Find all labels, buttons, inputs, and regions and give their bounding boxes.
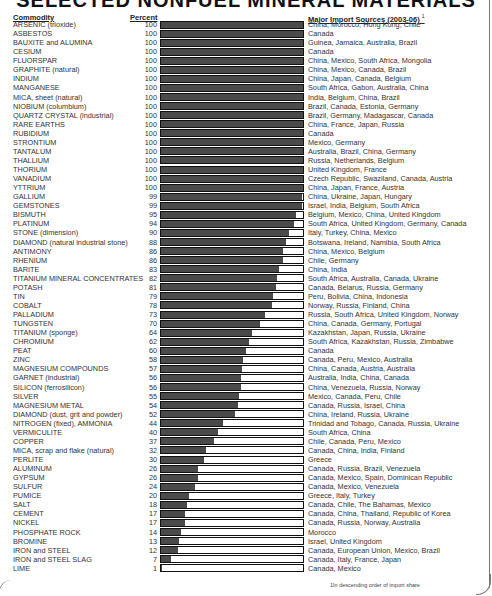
table-row: COPPER37Chile, Canada, Peru, Mexico bbox=[0, 437, 492, 446]
commodity-name: ASBESTOS bbox=[13, 29, 52, 38]
percent-value: 100 bbox=[128, 111, 157, 120]
percent-value: 99 bbox=[128, 192, 157, 201]
percent-value: 60 bbox=[128, 346, 157, 355]
percent-value: 56 bbox=[128, 383, 157, 392]
percent-bar bbox=[160, 392, 304, 400]
percent-bar bbox=[160, 537, 304, 545]
import-sources: Canada, Russia, Israel, China bbox=[308, 401, 405, 410]
percent-bar-fill bbox=[161, 538, 179, 544]
percent-value: 100 bbox=[128, 129, 157, 138]
percent-value: 100 bbox=[128, 74, 157, 83]
import-sources: Canada bbox=[308, 29, 334, 38]
import-sources: Canada, European Union, Mexico, Brazil bbox=[308, 546, 440, 555]
import-sources: Canada, Mexico bbox=[308, 564, 361, 573]
commodity-name: ARSENIC (trioxide) bbox=[13, 20, 76, 29]
table-row: SALT18Canada, Chile, The Bahamas, Mexico bbox=[0, 500, 492, 509]
table-row: SILICON (ferrosilicon)56China, Venezuela… bbox=[0, 383, 492, 392]
percent-bar bbox=[160, 510, 304, 518]
percent-bar-fill bbox=[161, 493, 189, 499]
percent-value: 100 bbox=[128, 102, 157, 111]
percent-value: 99 bbox=[128, 201, 157, 210]
percent-bar-fill bbox=[161, 221, 294, 227]
percent-bar-fill bbox=[161, 366, 242, 372]
table-row: PHOSPHATE ROCK14Morocco bbox=[0, 528, 492, 537]
percent-bar-fill bbox=[161, 67, 303, 73]
import-sources: Canada, China, Thailand, Republic of Kor… bbox=[308, 509, 451, 518]
percent-value: 73 bbox=[128, 310, 157, 319]
percent-value: 100 bbox=[128, 183, 157, 192]
percent-bar bbox=[160, 374, 304, 382]
commodity-name: MANGANESE bbox=[13, 83, 60, 92]
commodity-name: BAUXITE and ALUMINA bbox=[13, 38, 93, 47]
commodity-name: SALT bbox=[13, 500, 31, 509]
commodity-name: PERLITE bbox=[13, 455, 43, 464]
commodity-name: MICA, scrap and flake (natural) bbox=[13, 446, 114, 455]
percent-bar bbox=[160, 147, 304, 155]
percent-value: 1 bbox=[128, 564, 157, 573]
commodity-name: CEMENT bbox=[13, 509, 44, 518]
table-row: CHROMIUM62South Africa, Kazakhstan, Russ… bbox=[0, 337, 492, 346]
percent-value: 100 bbox=[128, 120, 157, 129]
commodity-name: TITANIUM (sponge) bbox=[13, 328, 78, 337]
import-sources: Czech Republic, Swaziland, Canada, Austr… bbox=[308, 174, 452, 183]
table-row: DIAMOND (dust, grit and powder)52China, … bbox=[0, 410, 492, 419]
percent-bar-fill bbox=[161, 203, 302, 209]
percent-value: 90 bbox=[128, 228, 157, 237]
percent-bar bbox=[160, 528, 304, 536]
import-sources: South Africa, Kazakhstan, Russia, Zimbab… bbox=[308, 337, 454, 346]
percent-bar bbox=[160, 75, 304, 83]
percent-bar-fill bbox=[161, 139, 303, 145]
table-row: CEMENT17Canada, China, Thailand, Republi… bbox=[0, 509, 492, 518]
commodity-name: SILICON (ferrosilicon) bbox=[13, 383, 84, 392]
percent-value: 7 bbox=[128, 555, 157, 564]
percent-bar bbox=[160, 156, 304, 164]
commodity-name: RUBIDIUM bbox=[13, 129, 49, 138]
commodity-name: NITROGEN (fixed), AMMONIA bbox=[13, 419, 112, 428]
import-sources: Canada bbox=[308, 129, 334, 138]
percent-bar-fill bbox=[161, 40, 303, 46]
percent-value: 54 bbox=[128, 401, 157, 410]
percent-bar bbox=[160, 120, 304, 128]
percent-value: 100 bbox=[128, 47, 157, 56]
table-row: NIOBIUM (columbium)100Brazil, Canada, Es… bbox=[0, 102, 492, 111]
percent-bar-fill bbox=[161, 339, 249, 345]
commodity-name: LIME bbox=[13, 564, 30, 573]
table-row: CESIUM100Canada bbox=[0, 47, 492, 56]
table-row: DIAMOND (natural industrial stone)88Bots… bbox=[0, 238, 492, 247]
percent-bar bbox=[160, 329, 304, 337]
commodity-name: TIN bbox=[13, 292, 25, 301]
percent-bar bbox=[160, 501, 304, 509]
percent-bar bbox=[160, 564, 304, 572]
table-row: INDIUM100China, Japan, Canada, Belgium bbox=[0, 74, 492, 83]
percent-bar-fill bbox=[161, 293, 273, 299]
percent-value: 12 bbox=[128, 546, 157, 555]
percent-value: 55 bbox=[128, 392, 157, 401]
import-sources: Botswana, Ireland, Namibia, South Africa bbox=[308, 238, 441, 247]
percent-bar-fill bbox=[161, 312, 265, 318]
import-sources: Italy, Turkey, China, Mexico bbox=[308, 228, 397, 237]
percent-bar bbox=[160, 202, 304, 210]
import-sources: Russia, South Africa, United Kingdom, No… bbox=[308, 310, 458, 319]
percent-bar-fill bbox=[161, 76, 303, 82]
table-row: TIN79Peru, Bolivia, China, Indonesia bbox=[0, 292, 492, 301]
percent-bar-fill bbox=[161, 411, 235, 417]
import-sources: India, Belgium, China, Brazil bbox=[308, 93, 400, 102]
chart-rows: ARSENIC (trioxide)100China, Morocco, Hon… bbox=[0, 20, 492, 573]
percent-bar-fill bbox=[161, 22, 303, 28]
table-row: STONE (dimension)90Italy, Turkey, China,… bbox=[0, 228, 492, 237]
import-sources: Russia, Netherlands, Belgium bbox=[308, 156, 404, 165]
commodity-name: INDIUM bbox=[13, 74, 39, 83]
percent-bar bbox=[160, 383, 304, 391]
table-row: LIME1Canada, Mexico bbox=[0, 564, 492, 573]
import-sources: Greece, Italy, Turkey bbox=[308, 491, 375, 500]
percent-bar bbox=[160, 229, 304, 237]
percent-bar bbox=[160, 211, 304, 219]
import-sources: China, Venezuela, Russia, Norway bbox=[308, 383, 420, 392]
percent-value: 100 bbox=[128, 65, 157, 74]
commodity-name: NIOBIUM (columbium) bbox=[13, 102, 86, 111]
percent-bar-fill bbox=[161, 302, 272, 308]
percent-bar-fill bbox=[161, 112, 303, 118]
import-sources: China, Ukraine, Japan, Hungary bbox=[308, 192, 412, 201]
percent-bar bbox=[160, 311, 304, 319]
import-sources: China, Japan, Canada, Belgium bbox=[308, 74, 411, 83]
